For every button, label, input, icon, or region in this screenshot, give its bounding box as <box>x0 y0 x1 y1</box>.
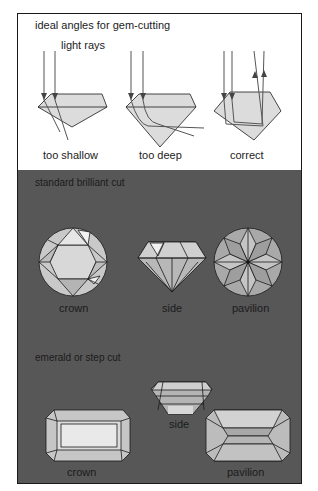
diagram-frame: ideal angles for gem-cutting light rays <box>17 13 302 484</box>
cuts-panel: standard brilliant cut <box>18 170 301 483</box>
correct-gem <box>214 51 281 140</box>
too-deep-gem <box>126 51 204 147</box>
emerald-pavilion-label: pavilion <box>227 466 264 478</box>
brilliant-crown <box>39 228 107 296</box>
emerald-crown <box>46 410 130 461</box>
emerald-pavilion <box>206 410 290 461</box>
brilliant-pavilion <box>214 228 282 296</box>
brilliant-side <box>138 242 206 292</box>
brilliant-pavilion-label: pavilion <box>232 302 269 314</box>
correct-label: correct <box>230 149 264 161</box>
emerald-side-label: side <box>169 418 189 430</box>
cut-diagrams <box>18 170 303 483</box>
emerald-crown-label: crown <box>67 466 96 478</box>
too-deep-label: too deep <box>139 149 182 161</box>
too-shallow-gem <box>38 51 107 140</box>
ideal-angles-panel: ideal angles for gem-cutting light rays <box>18 14 301 170</box>
emerald-side <box>151 382 212 414</box>
brilliant-side-label: side <box>162 302 182 314</box>
emerald-cut-title: emerald or step cut <box>35 352 121 363</box>
ray-diagrams <box>18 14 303 170</box>
too-shallow-label: too shallow <box>43 149 98 161</box>
brilliant-crown-label: crown <box>59 302 88 314</box>
